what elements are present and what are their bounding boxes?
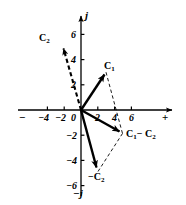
x-tick-label-4: 4 [112, 113, 117, 123]
vector-label-diff-subscript-2: 2 [152, 133, 156, 141]
y-tick-label--4: −4 [66, 156, 77, 166]
construction-line-negc2-to-sum [98, 134, 123, 172]
vector-label-c2-subscript: 2 [46, 37, 50, 45]
vector-label-c1-minus-c2: C1− C2 [126, 129, 156, 141]
vector-label-neg-c2: −C2 [88, 172, 104, 184]
x-axis-negative-label: − [19, 112, 25, 123]
figure-container: j −j + − −4 −2 0 2 4 6 6 4 2 −2 −4 −6 C1… [0, 0, 186, 205]
y-tick-label-2: 2 [71, 80, 76, 90]
x-tick-label--4: −4 [38, 113, 49, 123]
vector-c1 [81, 75, 105, 111]
vector-label-neg-c2-base: −C [88, 171, 101, 182]
x-tick-label-6: 6 [129, 113, 134, 123]
y-axis-positive-label: j [85, 10, 88, 21]
vector-label-diff-operator: − C [137, 128, 152, 139]
vector-label-c1: C1 [104, 61, 115, 73]
vector-label-c1-subscript: 1 [111, 65, 115, 73]
y-tick-label-6: 6 [71, 30, 76, 40]
vector-label-neg-c2-subscript: 2 [101, 176, 105, 184]
x-axis [18, 107, 172, 110]
y-tick-label-4: 4 [71, 55, 76, 65]
x-tick-label--2: −2 [55, 113, 66, 123]
x-axis-positive-label: + [162, 112, 168, 123]
x-tick-label-2: 2 [95, 113, 100, 123]
vector-label-c2: C2 [39, 33, 50, 45]
y-tick-label--6: −6 [66, 181, 77, 191]
y-tick-label--2: −2 [66, 131, 77, 141]
origin-label: 0 [71, 113, 76, 123]
